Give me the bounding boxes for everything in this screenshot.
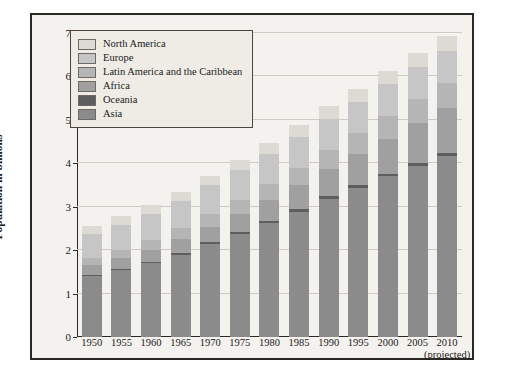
stacked-bar[interactable] [348,89,368,337]
bar-segment [437,51,457,83]
bar-segment [259,200,279,221]
legend-item[interactable]: Asia [78,107,242,121]
bar-segment [171,255,191,338]
stacked-bar[interactable] [289,125,309,337]
legend-label: Asia [103,109,122,120]
legend-swatch [78,67,96,78]
x-tick-label: 2000 [373,337,403,349]
bar-segment [111,250,131,258]
bar-segment [348,154,368,185]
bar-segment [200,227,220,243]
x-tick-label: 1975 [225,337,255,349]
bar-segment [378,116,398,139]
stacked-bar[interactable] [319,106,339,337]
bar-segment [171,201,191,228]
bar-segment [171,239,191,253]
x-tick-label: 1990 [314,337,344,349]
stacked-bar[interactable] [230,160,250,337]
bar-segment [319,150,339,169]
bar-segment [259,154,279,184]
bar-segment [378,71,398,84]
legend-item[interactable]: Latin America and the Caribbean [78,65,242,79]
stacked-bar[interactable] [200,175,220,337]
bar-segment [230,160,250,170]
x-tick-label: 1960 [136,337,166,349]
bar-segment [141,205,161,214]
x-tick-label-slot: 1985 [284,337,314,349]
legend-item[interactable]: Oceania [78,93,242,107]
y-tick-label: 4 [66,158,72,169]
y-tick-label: 0 [66,332,72,343]
legend-label: Africa [103,81,130,92]
y-tick-label: 3 [66,201,72,212]
stacked-bar[interactable] [82,226,102,337]
bar-segment [111,225,131,250]
y-axis-title: Population in billions [0,134,4,239]
bar-segment [111,258,131,269]
x-tick-label-slot: 2005 [403,337,433,349]
bar-segment [82,226,102,233]
bar-segment [437,36,457,51]
legend-swatch [78,39,96,50]
stacked-bar[interactable] [171,192,191,337]
bar-segment [82,265,102,275]
x-tick-label: 2010 [432,337,462,349]
stacked-bar[interactable] [437,36,457,337]
bar-segment [289,212,309,338]
bar-segment [141,240,161,250]
bar-segment [378,139,398,174]
bar-segment [378,176,398,337]
bar-segment [82,276,102,337]
bar-segment [408,53,428,67]
bar-segment [141,250,161,262]
bar-segment [111,216,131,224]
legend-label: Europe [103,53,133,64]
x-tick-label-slot: 1980 [255,337,285,349]
bar-slot [373,33,403,337]
legend-swatch [78,109,96,120]
legend-label: Latin America and the Caribbean [103,67,242,78]
stacked-bar[interactable] [408,53,428,337]
bar-segment [141,214,161,240]
x-tick-label-slot: 1965 [166,337,196,349]
bar-segment [111,270,131,337]
x-tick-label-slot: 1995 [343,337,373,349]
x-tick-label-slot: 1955 [107,337,137,349]
x-tick-labels: 1950195519601965197019751980198519901995… [77,337,462,349]
chart-legend: North AmericaEuropeLatin America and the… [70,30,253,128]
x-tick-label: 1965 [166,337,196,349]
bar-segment [378,84,398,116]
bar-segment [348,89,368,102]
x-tick-label-slot: 2010(projected) [432,337,462,349]
bar-slot [284,33,314,337]
legend-item[interactable]: North America [78,37,242,51]
bar-segment [230,200,250,214]
y-tick-label: 1 [66,288,72,299]
bar-segment [230,234,250,337]
bar-segment [408,67,428,99]
x-tick-label-slot: 1975 [225,337,255,349]
bar-segment [437,108,457,153]
bar-segment [319,199,339,337]
x-tick-label-slot: 1970 [195,337,225,349]
legend-swatch [78,53,96,64]
x-tick-label-note: (projected) [424,349,470,361]
bar-segment [437,83,457,109]
legend-item[interactable]: Africa [78,79,242,93]
y-tick-label: 2 [66,245,72,256]
stacked-bar[interactable] [259,143,279,337]
stacked-bar[interactable] [378,71,398,337]
legend-label: Oceania [103,95,137,106]
x-tick-label: 1995 [343,337,373,349]
bar-segment [348,102,368,134]
legend-item[interactable]: Europe [78,51,242,65]
legend-swatch [78,95,96,106]
bar-slot [255,33,285,337]
stacked-bar[interactable] [111,216,131,337]
bar-segment [200,185,220,214]
x-tick-label-slot: 1990 [314,337,344,349]
bar-segment [82,234,102,258]
bar-segment [348,133,368,154]
stacked-bar[interactable] [141,205,161,337]
bar-segment [408,123,428,163]
